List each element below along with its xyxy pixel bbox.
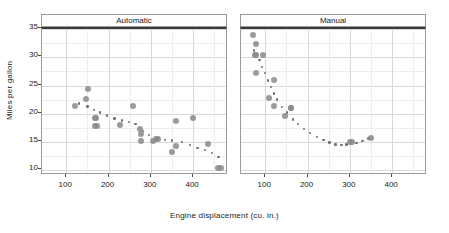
gridline-horizontal xyxy=(241,29,425,30)
y-tick-label: 35 xyxy=(14,22,38,31)
trend-point xyxy=(164,139,166,141)
trend-point xyxy=(267,79,269,81)
trend-point xyxy=(171,139,173,141)
x-tick-mark xyxy=(391,174,392,177)
data-point[interactable] xyxy=(173,118,179,124)
data-point[interactable] xyxy=(83,96,89,102)
data-point[interactable] xyxy=(72,103,78,109)
x-axis-line-manual xyxy=(240,173,426,174)
gridline-horizontal xyxy=(241,57,425,58)
y-tick-label: 25 xyxy=(14,79,38,88)
panel-automatic: Automatic 100200300400 xyxy=(41,14,227,189)
gridline-vertical xyxy=(66,29,67,173)
chart-root: Miles per gallon 101520253035 Automatic … xyxy=(0,0,449,233)
trend-point xyxy=(217,156,219,158)
gridline-horizontal xyxy=(241,114,425,115)
trend-point xyxy=(361,140,363,142)
data-point[interactable] xyxy=(253,70,259,76)
gridline-vertical-minor xyxy=(214,29,215,173)
data-point[interactable] xyxy=(282,113,288,119)
data-point[interactable] xyxy=(250,32,256,38)
gridline-horizontal-minor xyxy=(42,156,226,157)
trend-point xyxy=(316,136,318,138)
panel-strip-label: Manual xyxy=(320,16,346,25)
panel-manual: Manual 100200300400 xyxy=(240,14,426,189)
trend-point xyxy=(355,142,357,144)
data-point[interactable] xyxy=(138,131,144,137)
gridline-horizontal-minor xyxy=(42,43,226,44)
data-point[interactable] xyxy=(349,139,355,145)
x-tick-mark xyxy=(307,174,308,177)
gridline-horizontal-minor xyxy=(241,156,425,157)
data-point[interactable] xyxy=(190,115,196,121)
trend-point xyxy=(292,118,294,120)
data-point[interactable] xyxy=(253,41,259,47)
gridline-horizontal-minor xyxy=(42,128,226,129)
y-tick-label: 15 xyxy=(14,135,38,144)
trend-point xyxy=(322,139,324,141)
trend-point xyxy=(204,149,206,151)
data-point[interactable] xyxy=(271,103,277,109)
x-tick-label: 400 xyxy=(179,180,205,189)
trend-point xyxy=(189,144,191,146)
gridline-vertical-minor xyxy=(286,29,287,173)
gridline-horizontal xyxy=(42,170,226,171)
data-point[interactable] xyxy=(173,143,179,149)
x-tick-mark xyxy=(192,174,193,177)
gridline-vertical xyxy=(109,29,110,173)
gridline-vertical-minor xyxy=(413,29,414,173)
data-point[interactable] xyxy=(271,77,277,83)
gridline-vertical-minor xyxy=(329,29,330,173)
gridline-horizontal-minor xyxy=(241,71,425,72)
trend-point xyxy=(270,86,272,88)
data-point[interactable] xyxy=(93,115,99,121)
gridline-horizontal xyxy=(241,170,425,171)
data-point[interactable] xyxy=(138,138,144,144)
panel-strip-label: Automatic xyxy=(116,16,152,25)
trend-point xyxy=(258,59,260,61)
gridline-horizontal xyxy=(42,57,226,58)
gridline-horizontal xyxy=(241,142,425,143)
plot-area-manual xyxy=(240,27,426,174)
x-tick-label: 100 xyxy=(52,180,78,189)
trend-point xyxy=(328,141,330,143)
gridline-horizontal xyxy=(42,142,226,143)
gridline-vertical-minor xyxy=(130,29,131,173)
x-axis-label: Engine displacement (cu. in.) xyxy=(0,211,449,220)
gridline-vertical xyxy=(151,29,152,173)
x-tick-mark xyxy=(150,174,151,177)
data-point[interactable] xyxy=(368,135,374,141)
data-point[interactable] xyxy=(130,103,136,109)
x-tick-label: 200 xyxy=(95,180,121,189)
gridline-horizontal xyxy=(42,86,226,87)
trend-point xyxy=(78,102,80,104)
trend-point xyxy=(264,72,266,74)
trend-point xyxy=(273,92,275,94)
data-point[interactable] xyxy=(288,105,294,111)
y-tick-label: 30 xyxy=(14,50,38,59)
data-point[interactable] xyxy=(205,141,211,147)
x-tick-mark xyxy=(349,174,350,177)
trend-point xyxy=(196,147,198,149)
gridline-horizontal xyxy=(241,86,425,87)
panel-strip-automatic: Automatic xyxy=(41,14,227,27)
data-point[interactable] xyxy=(169,149,175,155)
trend-point xyxy=(86,105,88,107)
gridline-vertical xyxy=(308,29,309,173)
trend-point xyxy=(93,109,95,111)
data-point[interactable] xyxy=(85,86,91,92)
data-point[interactable] xyxy=(266,95,272,101)
gridline-vertical xyxy=(193,29,194,173)
gridline-horizontal-minor xyxy=(241,128,425,129)
trend-point xyxy=(148,134,150,136)
gridline-horizontal-minor xyxy=(42,71,226,72)
trend-point xyxy=(281,106,283,108)
x-tick-label: 200 xyxy=(294,180,320,189)
x-tick-mark xyxy=(65,174,66,177)
trend-point xyxy=(334,143,336,145)
x-tick-mark xyxy=(108,174,109,177)
x-tick-label: 300 xyxy=(137,180,163,189)
data-point[interactable] xyxy=(117,122,123,128)
x-tick-label: 400 xyxy=(378,180,404,189)
data-point[interactable] xyxy=(218,165,224,171)
